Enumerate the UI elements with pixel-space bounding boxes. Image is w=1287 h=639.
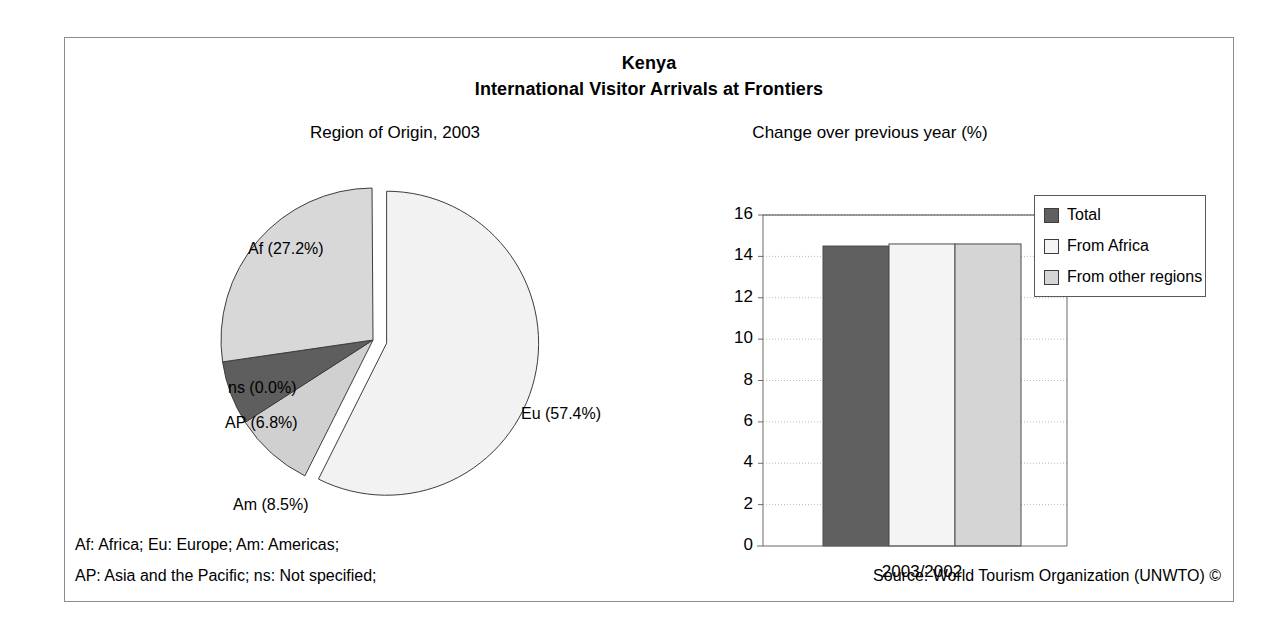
bar-chart: 0246810121416 2003/2002 Total From Afric… bbox=[635, 148, 1225, 548]
legend-item-total: Total bbox=[1044, 203, 1101, 227]
y-tick-label-2: 2 bbox=[703, 494, 753, 514]
legend-swatch-total bbox=[1044, 208, 1059, 223]
bar-from-other-regions bbox=[955, 244, 1021, 546]
footnote-line-1: Af: Africa; Eu: Europe; Am: Americas; bbox=[75, 536, 339, 554]
pie-slice-group bbox=[221, 188, 539, 495]
legend-item-from-other-regions: From other regions bbox=[1044, 265, 1202, 289]
y-tick-label-0: 0 bbox=[703, 535, 753, 555]
bar-chart-caption: Change over previous year (%) bbox=[645, 123, 1095, 143]
y-tick-label-8: 8 bbox=[703, 370, 753, 390]
legend-swatch-from-africa bbox=[1044, 239, 1059, 254]
pie-label-am: Am (8.5%) bbox=[233, 496, 309, 514]
pie-label-ap: AP (6.8%) bbox=[225, 414, 298, 432]
legend-label-from-other-regions: From other regions bbox=[1067, 268, 1202, 286]
chart-frame: Kenya International Visitor Arrivals at … bbox=[64, 37, 1234, 602]
page-subtitle: International Visitor Arrivals at Fronti… bbox=[65, 79, 1233, 100]
bar-total bbox=[823, 246, 889, 546]
page-title: Kenya bbox=[65, 53, 1233, 74]
bar-chart-legend: Total From Africa From other regions bbox=[1034, 195, 1206, 297]
source-credit: Source: World Tourism Organization (UNWT… bbox=[873, 567, 1221, 585]
pie-label-ns: ns (0.0%) bbox=[228, 379, 296, 397]
y-tick-label-12: 12 bbox=[703, 287, 753, 307]
legend-label-total: Total bbox=[1067, 206, 1101, 224]
bar-rect-group bbox=[823, 244, 1021, 546]
y-tick-label-4: 4 bbox=[703, 452, 753, 472]
pie-chart-caption: Region of Origin, 2003 bbox=[205, 123, 585, 143]
pie-chart: Af (27.2%) ns (0.0%) AP (6.8%) Am (8.5%)… bbox=[155, 148, 695, 538]
pie-slice-af bbox=[221, 188, 373, 362]
y-tick-label-10: 10 bbox=[703, 328, 753, 348]
legend-label-from-africa: From Africa bbox=[1067, 237, 1149, 255]
y-tick-label-14: 14 bbox=[703, 245, 753, 265]
pie-label-af: Af (27.2%) bbox=[248, 240, 324, 258]
bar-from-africa bbox=[889, 244, 955, 546]
pie-chart-svg bbox=[155, 148, 695, 538]
y-tick-label-6: 6 bbox=[703, 411, 753, 431]
pie-label-eu: Eu (57.4%) bbox=[521, 405, 601, 423]
legend-swatch-from-other-regions bbox=[1044, 270, 1059, 285]
y-tick-label-16: 16 bbox=[703, 204, 753, 224]
legend-item-from-africa: From Africa bbox=[1044, 234, 1149, 258]
footnote-line-2: AP: Asia and the Pacific; ns: Not specif… bbox=[75, 567, 377, 585]
